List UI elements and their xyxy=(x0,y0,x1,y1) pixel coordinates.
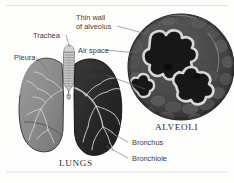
label-trachea: Trachea xyxy=(33,31,61,40)
label-bronchiole: Bronchiole xyxy=(132,154,167,163)
blood-vessel-dot-2 xyxy=(193,73,201,79)
label-pleura: Pleura xyxy=(14,53,36,62)
lung-anatomy-figure: Thin wall of alveolus Air space Blood ve… xyxy=(0,0,234,183)
caption-lungs: LUNGS xyxy=(59,158,93,168)
caption-alveoli: ALVEOLI xyxy=(155,122,198,132)
label-thin-wall-line1: Thin wall xyxy=(76,13,106,22)
label-blood-vessel-line2: vessel xyxy=(85,71,106,80)
label-blood-vessel-line1: Blood xyxy=(85,62,104,71)
label-thin-wall-line2: of alveolus xyxy=(76,22,112,31)
label-air-space: Air space xyxy=(78,46,109,55)
blood-vessel-dot-1 xyxy=(164,64,173,71)
label-bronchus: Bronchus xyxy=(132,138,164,147)
